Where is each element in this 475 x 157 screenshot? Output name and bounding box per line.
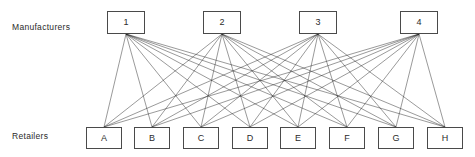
retailer-node-label: A	[101, 134, 107, 143]
edge-m3-b	[152, 34, 318, 127]
manufacturer-node-label: 2	[219, 18, 224, 27]
retailer-node-d[interactable]: D	[232, 127, 268, 149]
manufacturer-node-label: 4	[416, 18, 421, 27]
edge-m4-f	[347, 34, 419, 127]
retailer-node-label: F	[344, 134, 350, 143]
edge-m3-c	[201, 34, 318, 127]
edge-m4-g	[396, 34, 419, 127]
retailer-node-f[interactable]: F	[329, 127, 365, 149]
retailer-node-c[interactable]: C	[183, 127, 219, 149]
edge-m2-f	[222, 34, 347, 127]
edge-m4-a	[104, 34, 419, 127]
retailer-node-label: G	[392, 134, 399, 143]
manufacturer-node-m2[interactable]: 2	[203, 11, 241, 34]
bipartite-network-diagram: Manufacturers Retailers 1234 ABCDEFGH	[0, 0, 475, 157]
retailers-row-label: Retailers	[12, 131, 48, 141]
edge-m2-g	[222, 34, 396, 127]
retailer-node-a[interactable]: A	[86, 127, 122, 149]
retailer-node-label: C	[198, 134, 205, 143]
retailer-node-h[interactable]: H	[427, 127, 463, 149]
manufacturers-row-label: Manufacturers	[12, 22, 70, 32]
edge-m4-c	[201, 34, 419, 127]
retailer-node-label: H	[442, 134, 449, 143]
manufacturer-node-m3[interactable]: 3	[299, 11, 337, 34]
retailer-node-b[interactable]: B	[134, 127, 170, 149]
edge-m3-h	[318, 34, 445, 127]
edge-m1-b	[126, 34, 152, 127]
edge-m4-e	[298, 34, 419, 127]
edge-m3-f	[318, 34, 347, 127]
retailer-node-label: B	[149, 134, 155, 143]
edge-m1-a	[104, 34, 126, 127]
edge-m2-d	[222, 34, 250, 127]
retailer-node-label: D	[247, 134, 254, 143]
edge-m3-g	[318, 34, 396, 127]
manufacturer-node-label: 3	[315, 18, 320, 27]
retailer-node-e[interactable]: E	[280, 127, 316, 149]
edge-m4-h	[419, 34, 445, 127]
manufacturer-node-label: 1	[123, 18, 128, 27]
edge-m1-d	[126, 34, 250, 127]
manufacturer-node-m1[interactable]: 1	[107, 11, 145, 34]
edge-m4-d	[250, 34, 419, 127]
edge-m1-c	[126, 34, 201, 127]
retailer-node-label: E	[295, 134, 301, 143]
edge-m1-f	[126, 34, 347, 127]
manufacturer-node-m4[interactable]: 4	[400, 11, 438, 34]
edge-m2-h	[222, 34, 445, 127]
retailer-node-g[interactable]: G	[378, 127, 414, 149]
